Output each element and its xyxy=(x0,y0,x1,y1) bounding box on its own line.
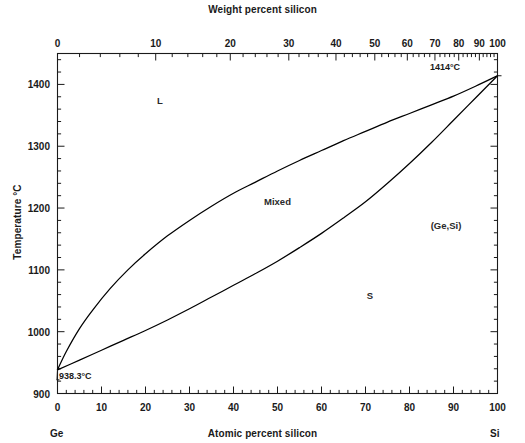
ge-melting-point-label: 938.3°C xyxy=(59,371,92,381)
phase-label-liquid: L xyxy=(157,95,163,106)
phase-label-ge-si-solid-solution: (Ge,Si) xyxy=(431,220,462,231)
phase-diagram-figure: Weight percent silicon Atomic percent si… xyxy=(0,0,525,443)
phase-label-mixed: Mixed xyxy=(264,195,291,206)
phase-label-solid: S xyxy=(367,289,373,300)
si-melting-point-label: 1414°C xyxy=(430,62,460,72)
